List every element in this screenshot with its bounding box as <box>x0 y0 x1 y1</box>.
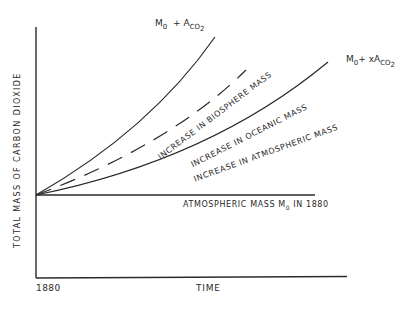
formula-co: CO <box>190 23 200 31</box>
formula-2: 2 <box>391 61 395 69</box>
formula-m-sub: 0 <box>354 59 358 67</box>
y-axis-label: TOTAL MASS OF CARBON DIOXIDE <box>13 72 22 248</box>
label-baseline: ATMOSPHERIC MASS M0 IN 1880 <box>183 201 329 209</box>
top-curve-formula: M0 + ACO2 <box>155 18 205 28</box>
baseline-text-sub: 0 <box>286 204 290 211</box>
baseline-text-post: IN 1880 <box>290 200 329 209</box>
curve-atmospheric-co2 <box>36 62 328 195</box>
lower-curve-formula: M0+ xACO2 <box>346 54 395 64</box>
formula-m: M <box>346 54 354 64</box>
formula-2: 2 <box>200 25 204 33</box>
baseline-text-pre: ATMOSPHERIC MASS M <box>183 200 286 209</box>
formula-co: CO <box>380 59 390 67</box>
x-axis-label: TIME <box>196 284 221 293</box>
formula-op: + A <box>170 18 189 28</box>
x-axis <box>36 277 347 279</box>
x-start-label: 1880 <box>36 284 61 293</box>
formula-m-sub: 0 <box>163 23 167 31</box>
formula-op: + xA <box>358 54 380 64</box>
formula-m: M <box>155 18 163 28</box>
